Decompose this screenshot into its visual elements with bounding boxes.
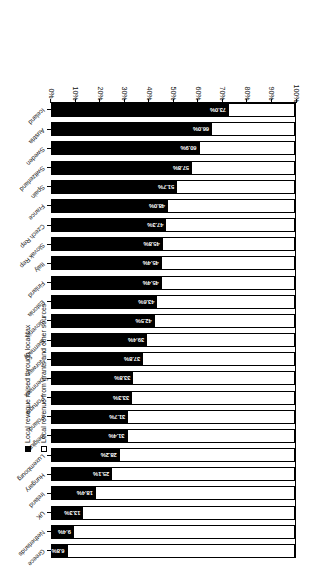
category-tick-netherlands: Netherlands <box>0 525 51 539</box>
bar-segment-grants <box>83 506 295 520</box>
axis-tick-mark <box>47 531 51 532</box>
bar-segment-tax: 51.7% <box>51 180 177 194</box>
axis-tick-mark <box>47 340 51 341</box>
bar-value-label: 73.0% <box>210 107 229 113</box>
bar-row: 25.1% <box>51 467 295 481</box>
bar-value-label: 66.0% <box>193 126 212 132</box>
value-tick-label: 50% <box>170 86 177 100</box>
bar-row: 45.8% <box>51 237 295 251</box>
bar-segment-tax: 47.3% <box>51 218 166 232</box>
bar-segment-tax: 9.4% <box>51 525 74 539</box>
plot-area: 6.8%9.4%13.3%18.4%25.1%28.2%31.4%31.7%33… <box>51 103 296 558</box>
bar-row: 42.5% <box>51 314 295 328</box>
bar-row: 60.9% <box>51 141 295 155</box>
bar-value-label: 33.8% <box>114 375 133 381</box>
value-tick-50: 50% <box>166 90 180 103</box>
axis-tick-mark <box>51 99 52 103</box>
axis-tick-mark <box>47 129 51 130</box>
bar-row: 6.8% <box>51 544 295 558</box>
bar-segment-grants <box>162 256 295 270</box>
bar-value-label: 31.4% <box>109 433 128 439</box>
bar-segment-tax: 25.1% <box>51 467 112 481</box>
rotated-figure-container: 6.8%9.4%13.3%18.4%25.1%28.2%31.4%31.7%33… <box>0 0 326 572</box>
value-tick-40: 40% <box>142 90 156 103</box>
bar-value-label: 6.8% <box>52 548 68 554</box>
bar-segment-tax: 57.8% <box>51 161 192 175</box>
legend-item-grants: Local revenue from grants and other sour… <box>40 304 47 452</box>
bar-segment-tax: 6.8% <box>51 544 68 558</box>
bar-row: 48.0% <box>51 199 295 213</box>
bar-row: 66.0% <box>51 122 295 136</box>
bar-value-label: 48.0% <box>149 203 168 209</box>
bar-value-label: 51.7% <box>158 184 177 190</box>
axis-tick-mark <box>47 301 51 302</box>
bar-row: 33.3% <box>51 391 295 405</box>
legend-label: Local revenue raised through local tax <box>24 325 31 443</box>
bar-segment-tax: 31.7% <box>51 410 128 424</box>
bar-segment-tax: 31.4% <box>51 429 128 443</box>
axis-tick-mark <box>47 493 51 494</box>
category-tick-uk: UK <box>0 506 51 520</box>
bar-segment-grants <box>147 333 295 347</box>
bar-segment-tax: 18.4% <box>51 486 96 500</box>
value-tick-30: 30% <box>117 90 131 103</box>
bar-value-label: 45.8% <box>144 241 163 247</box>
bar-row: 39.4% <box>51 333 295 347</box>
bar-segment-grants <box>74 525 295 539</box>
bar-segment-grants <box>120 448 295 462</box>
axis-tick-mark <box>47 551 51 552</box>
bar-row: 43.6% <box>51 295 295 309</box>
value-tick-0: 0% <box>46 90 56 103</box>
axis-tick-mark <box>47 263 51 264</box>
legend-swatch-tax <box>25 446 31 452</box>
bar-segment-tax: 45.4% <box>51 276 162 290</box>
bar-segment-grants <box>163 237 295 251</box>
value-tick-label: 30% <box>121 86 128 100</box>
bar-segment-grants <box>177 180 295 194</box>
bar-value-label: 57.8% <box>173 165 192 171</box>
bar-value-label: 25.1% <box>93 471 112 477</box>
value-tick-100: 100% <box>287 90 305 103</box>
bar-value-label: 28.2% <box>101 452 120 458</box>
bar-row: 73.0% <box>51 103 295 117</box>
bar-segment-grants <box>192 161 295 175</box>
bar-segment-grants <box>128 410 295 424</box>
bar-row: 31.7% <box>51 410 295 424</box>
bar-row: 37.8% <box>51 352 295 366</box>
bar-row: 13.3% <box>51 506 295 520</box>
axis-tick-mark <box>47 474 51 475</box>
bar-row: 45.4% <box>51 256 295 270</box>
bar-row: 33.8% <box>51 371 295 385</box>
value-tick-90: 90% <box>264 90 278 103</box>
axis-tick-mark <box>47 359 51 360</box>
bar-segment-tax: 66.0% <box>51 122 212 136</box>
bar-row: 45.4% <box>51 276 295 290</box>
bar-segment-grants <box>68 544 295 558</box>
bar-segment-grants <box>229 103 295 117</box>
value-tick-10: 10% <box>68 90 82 103</box>
bar-value-label: 13.3% <box>64 510 83 516</box>
value-tick-20: 20% <box>93 90 107 103</box>
bar-segment-grants <box>166 218 295 232</box>
bar-segment-grants <box>96 486 295 500</box>
bar-value-label: 45.4% <box>143 260 162 266</box>
value-tick-80: 80% <box>240 90 254 103</box>
bar-row: 28.2% <box>51 448 295 462</box>
bar-segment-tax: 45.8% <box>51 237 163 251</box>
bar-segment-tax: 13.3% <box>51 506 83 520</box>
bar-segment-grants <box>132 391 295 405</box>
bar-segment-grants <box>112 467 295 481</box>
axis-tick-mark <box>47 512 51 513</box>
axis-tick-mark <box>47 320 51 321</box>
bar-segment-tax: 37.8% <box>51 352 143 366</box>
bar-value-label: 60.9% <box>181 145 200 151</box>
value-tick-label: 100% <box>293 85 300 103</box>
bar-segment-grants <box>133 371 295 385</box>
value-tick-label: 90% <box>268 86 275 100</box>
bar-value-label: 37.8% <box>124 356 143 362</box>
bar-value-label: 43.6% <box>138 299 157 305</box>
value-tick-label: 0% <box>48 88 55 98</box>
bar-row: 51.7% <box>51 180 295 194</box>
value-tick-label: 10% <box>72 86 79 100</box>
legend-label: Local revenue from grants and other sour… <box>40 304 47 443</box>
